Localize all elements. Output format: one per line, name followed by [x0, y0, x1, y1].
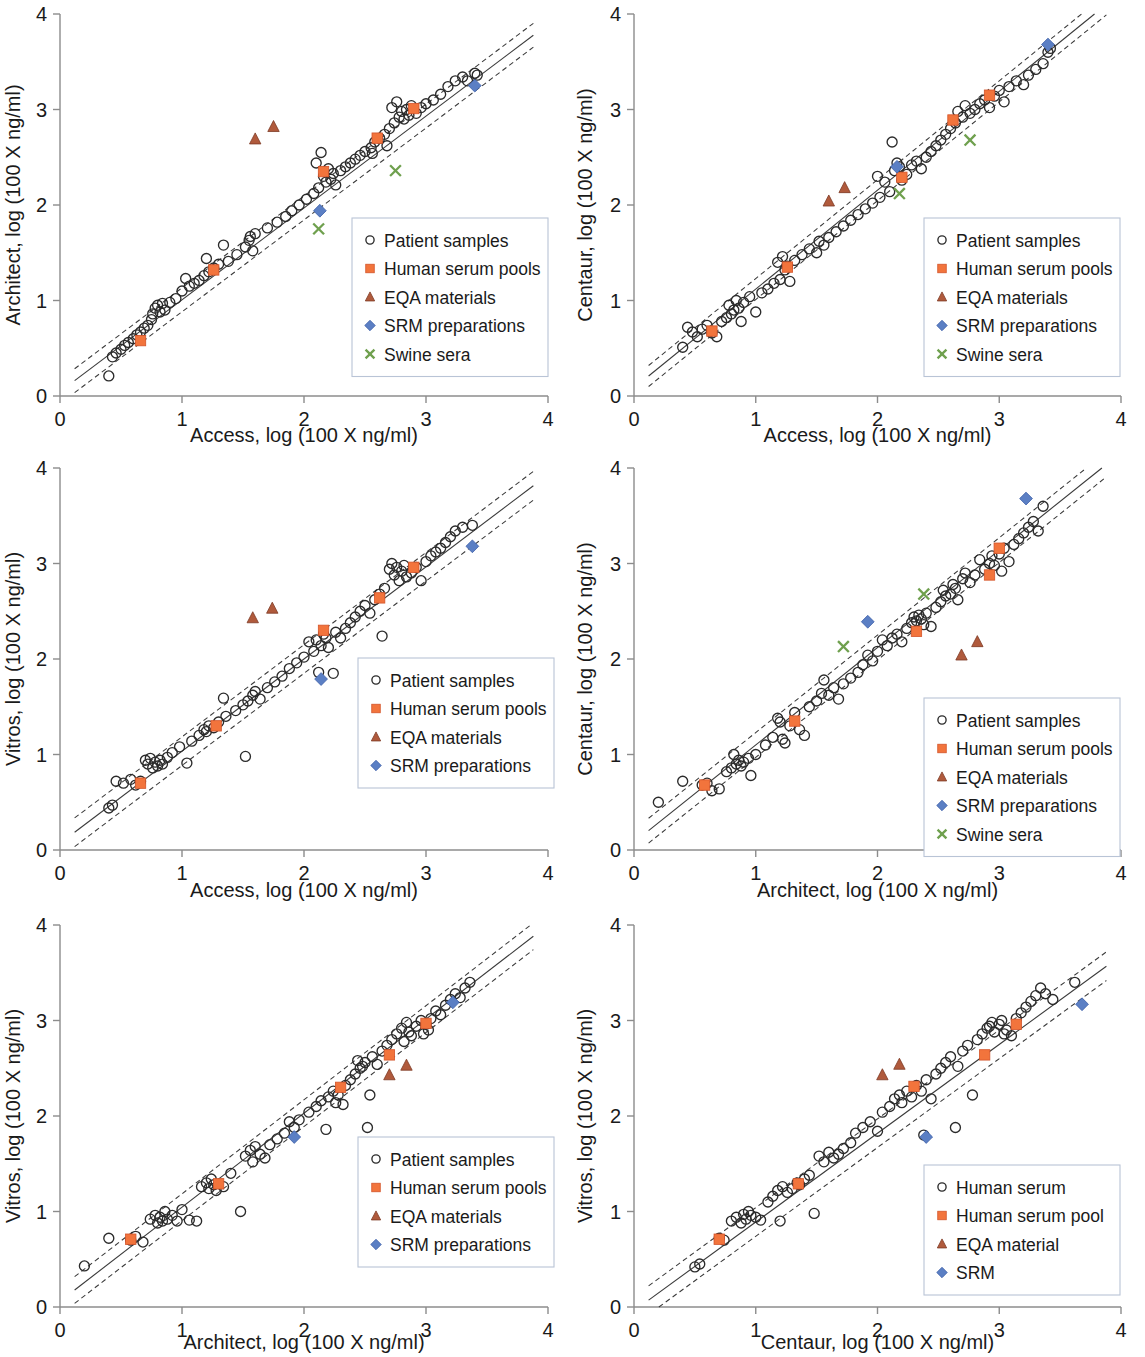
y-axis-title: Vitros, log (100 X ng/ml) [2, 552, 24, 766]
data-point [920, 1131, 933, 1144]
series-triangle [247, 602, 278, 623]
series-triangle [823, 182, 850, 206]
data-point [416, 576, 426, 586]
y-tick-label: 3 [610, 1010, 621, 1032]
data-point [926, 622, 936, 632]
series-diamond [313, 79, 481, 217]
data-point [211, 721, 221, 731]
legend-label: Human serum pools [390, 1178, 547, 1198]
data-point [897, 637, 907, 647]
data-point [218, 240, 228, 250]
legend: Patient samplesHuman serum poolsEQA mate… [358, 658, 554, 788]
data-point [468, 79, 481, 92]
y-tick-label: 4 [36, 3, 47, 25]
y-tick-label: 2 [610, 648, 621, 670]
data-point [785, 276, 795, 286]
y-axis-title: Centaur, log (100 X ng/ml) [574, 88, 596, 321]
data-point [209, 265, 219, 275]
data-point [1004, 557, 1014, 567]
chart-panel-centaur-vs-architect: 0123401234Architect, log (100 X ng/ml)Ce… [572, 450, 1145, 905]
legend-label: Swine sera [956, 345, 1043, 365]
data-point [790, 716, 800, 726]
data-point [816, 688, 826, 698]
data-point [236, 1207, 246, 1217]
data-point [975, 555, 985, 565]
data-point [960, 568, 970, 578]
chart-panel-vitros-vs-access: 0123401234Access, log (100 X ng/ml)Vitro… [0, 450, 572, 905]
data-point [466, 540, 479, 553]
legend-label: Human serum pool [956, 1206, 1104, 1226]
data-point [372, 1059, 382, 1069]
data-point [829, 683, 839, 693]
legend-label: Swine sera [956, 825, 1043, 845]
legend-label: SRM preparations [390, 1235, 531, 1255]
y-tick-label: 1 [610, 744, 621, 766]
data-point [877, 1069, 888, 1080]
data-point [182, 758, 192, 768]
legend-label: Patient samples [390, 671, 515, 691]
x-tick-label: 4 [1115, 408, 1126, 430]
data-point [751, 307, 761, 317]
data-point [967, 1090, 977, 1100]
y-tick-label: 4 [610, 914, 621, 936]
y-axis-title: Vitros, log (100 X ng/ml) [2, 1009, 24, 1223]
series-diamond [288, 996, 459, 1143]
legend-marker-square-icon [938, 744, 947, 753]
y-tick-label: 4 [36, 914, 47, 936]
legend-label: EQA materials [956, 288, 1068, 308]
data-point [972, 636, 983, 647]
y-tick-label: 0 [36, 385, 47, 407]
legend-label: SRM preparations [384, 316, 525, 336]
x-tick-label: 3 [420, 408, 431, 430]
x-tick-label: 1 [176, 408, 187, 430]
y-tick-label: 2 [36, 194, 47, 216]
x-tick-label: 1 [750, 1319, 761, 1341]
data-point [328, 668, 338, 678]
y-tick-label: 2 [36, 648, 47, 670]
data-point [948, 115, 958, 125]
data-point [707, 326, 717, 336]
scatter-plot-figure: 0123401234Access, log (100 X ng/ml)Archi… [0, 0, 1145, 1357]
y-tick-label: 2 [610, 194, 621, 216]
data-point [321, 1124, 331, 1134]
data-point [323, 643, 333, 653]
legend: Patient samplesHuman serum poolsEQA mate… [924, 698, 1120, 857]
x-tick-label: 4 [1115, 1319, 1126, 1341]
legend-label: Human serum pools [384, 259, 541, 279]
series-triangle [956, 636, 983, 660]
chart-panel-centaur-vs-access: 0123401234Access, log (100 X ng/ml)Centa… [572, 0, 1145, 450]
legend-label: Patient samples [956, 711, 1081, 731]
legend-label: Human serum [956, 1178, 1066, 1198]
x-tick-label: 0 [54, 862, 65, 884]
data-point [865, 1117, 875, 1127]
y-tick-label: 0 [610, 1296, 621, 1318]
legend-marker-square-icon [372, 704, 381, 713]
x-tick-label: 3 [420, 862, 431, 884]
y-tick-label: 1 [36, 290, 47, 312]
data-point [372, 133, 382, 143]
x-axis-title: Architect, log (100 X ng/ml) [757, 879, 998, 901]
chart-panel-vitros-vs-centaur: 0123401234Centaur, log (100 X ng/ml)Vitr… [572, 905, 1145, 1357]
data-point [421, 1018, 431, 1028]
data-point [374, 593, 384, 603]
data-point [409, 562, 419, 572]
data-point [885, 187, 895, 197]
data-point [887, 137, 897, 147]
data-point [267, 602, 278, 613]
data-point [846, 1138, 856, 1148]
data-point [304, 637, 314, 647]
data-point [678, 342, 688, 352]
data-point [858, 660, 868, 670]
series-triangle [249, 120, 279, 143]
x-tick-label: 3 [994, 1319, 1005, 1341]
data-point [984, 90, 994, 100]
data-point [192, 1216, 202, 1226]
data-point [316, 147, 326, 157]
data-point [909, 1081, 919, 1091]
x-tick-label: 0 [54, 408, 65, 430]
data-point [409, 103, 419, 113]
data-point [819, 675, 829, 685]
data-point [746, 771, 756, 781]
data-point [984, 570, 994, 580]
y-tick-label: 3 [36, 553, 47, 575]
